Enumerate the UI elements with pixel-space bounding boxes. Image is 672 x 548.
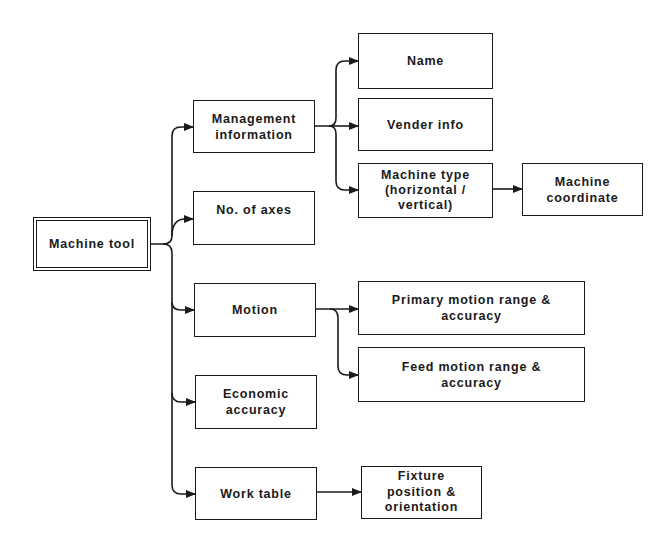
edge-root-management <box>151 127 193 244</box>
edge-mgmt-type <box>329 126 358 190</box>
edge-root-worktable <box>172 393 195 494</box>
node-vender-info: Vender info <box>358 98 493 151</box>
machine-tool-diagram: Machine tool Management information No. … <box>0 0 672 548</box>
edge-motion-feed <box>330 309 358 375</box>
node-management-information: Management information <box>193 100 315 153</box>
edge-root-motion <box>163 244 194 310</box>
connector-lines <box>0 0 672 548</box>
node-economic-accuracy: Economic accuracy <box>195 375 317 429</box>
edge-root-axes <box>172 219 193 236</box>
node-fixture-position-orientation: Fixture position & orientation <box>361 466 482 519</box>
node-machine-type: Machine type (horizontal / vertical) <box>358 163 493 218</box>
node-primary-motion-range-accuracy: Primary motion range & accuracy <box>358 281 585 335</box>
edge-mgmt-name <box>315 61 358 126</box>
node-no-of-axes: No. of axes <box>193 191 315 245</box>
node-feed-motion-range-accuracy: Feed motion range & accuracy <box>358 347 585 402</box>
node-machine-tool: Machine tool <box>33 217 151 271</box>
node-name: Name <box>358 33 493 89</box>
edge-root-economic <box>172 302 195 402</box>
node-motion: Motion <box>194 283 316 337</box>
node-machine-coordinate: Machine coordinate <box>522 163 643 216</box>
node-work-table: Work table <box>195 467 317 520</box>
